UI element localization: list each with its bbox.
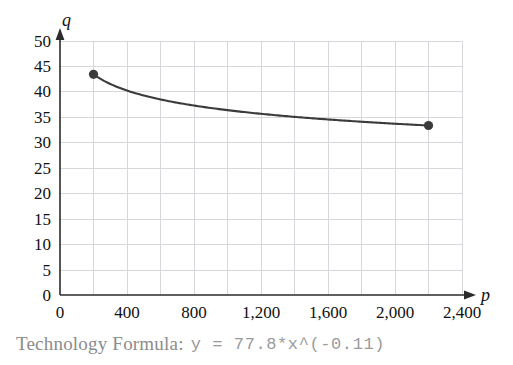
technology-formula-figure: q p 50 45 40 35 30 25 20 15 10 5 0 0 400…	[0, 0, 513, 365]
x-tick-label: 1,600	[309, 303, 347, 322]
caption: Technology Formula: y = 77.8*x^(-0.11)	[16, 330, 496, 358]
x-tick-label: 400	[114, 303, 140, 322]
y-tick-label: 10	[34, 235, 51, 254]
y-tick-label: 50	[34, 32, 51, 51]
y-tick-label: 15	[34, 210, 51, 229]
caption-label: Technology Formula:	[16, 333, 184, 355]
x-tick-label: 2,400	[443, 303, 481, 322]
y-tick-label: 25	[34, 159, 51, 178]
y-tick-label: 45	[34, 57, 51, 76]
y-tick-label: 5	[43, 261, 52, 280]
y-tick-labels: 50 45 40 35 30 25 20 15 10 5 0	[34, 32, 51, 305]
x-tick-labels: 0 400 800 1,200 1,600 2,000 2,400	[56, 303, 481, 322]
x-tick-label: 800	[181, 303, 207, 322]
x-tick-label: 0	[56, 303, 65, 322]
y-axis-label: q	[62, 10, 71, 30]
y-tick-label: 20	[34, 184, 51, 203]
y-tick-label: 40	[34, 82, 51, 101]
y-tick-label: 30	[34, 133, 51, 152]
data-point-marker	[424, 121, 433, 130]
y-tick-label: 35	[34, 108, 51, 127]
x-axis	[60, 291, 476, 300]
x-tick-label: 1,200	[242, 303, 280, 322]
y-axis	[56, 28, 65, 295]
data-point-marker	[89, 70, 98, 79]
y-tick-label: 0	[43, 286, 52, 305]
x-tick-label: 2,000	[376, 303, 414, 322]
caption-formula: y = 77.8*x^(-0.11)	[191, 335, 385, 354]
demand-curve-chart: q p 50 45 40 35 30 25 20 15 10 5 0 0 400…	[0, 0, 513, 325]
x-axis-label: p	[479, 285, 490, 305]
